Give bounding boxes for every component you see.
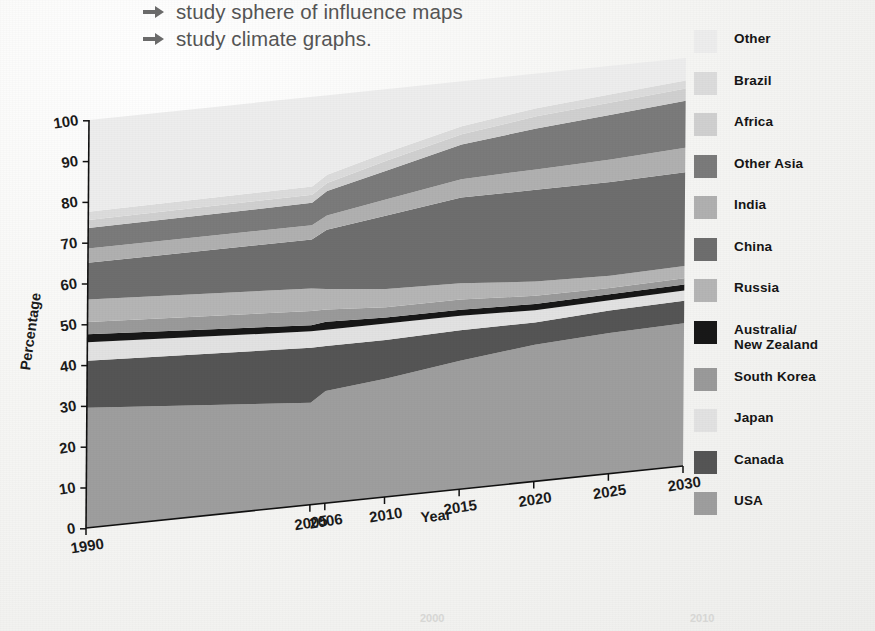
legend-label: Brazil [734,70,772,89]
legend-swatch [694,113,717,136]
legend-swatch [694,492,717,515]
x-tick-label: 1990 [69,535,105,557]
x-axis-title: Year [420,506,453,525]
legend-item: South Korea [694,366,872,408]
legend-item: Australia/ New Zealand [694,319,872,366]
scan-artifact: 2000 [420,612,444,624]
y-tick-label: 60 [59,274,78,293]
legend-item: Russia [694,277,872,319]
legend-swatch [694,72,717,95]
legend-label: Africa [734,111,773,130]
legend-label: USA [734,490,763,509]
y-tick-label: 50 [59,315,78,334]
y-tick-label: 80 [60,193,79,212]
legend-item: China [694,236,872,278]
legend-label: Other Asia [734,153,803,172]
legend-swatch [694,155,717,178]
legend-item: India [694,194,872,236]
y-tick-label: 40 [59,356,78,375]
y-axis-title: Percentage [17,292,44,372]
y-tick-label: 20 [58,438,77,457]
legend-label: Australia/ New Zealand [734,319,818,353]
legend-swatch [694,409,717,432]
legend-label: Canada [734,449,784,468]
legend-label: Russia [734,277,779,296]
legend-swatch [694,279,717,302]
x-tick-label: 2010 [368,504,404,526]
legend-swatch [694,368,717,391]
legend-item: Other Asia [694,153,872,195]
legend-label: China [734,236,772,255]
legend-label: Japan [734,407,774,426]
legend-item: Other [694,28,872,70]
legend-swatch [694,238,717,261]
x-tick-label: 2025 [592,480,628,502]
legend-swatch [694,451,717,474]
legend-item: Africa [694,111,872,153]
x-tick-label: 2006 [308,510,344,532]
chart-legend: OtherBrazilAfricaOther AsiaIndiaChinaRus… [694,28,872,532]
y-tick-label: 10 [58,478,77,497]
y-tick-label: 30 [58,397,77,416]
y-tick-label: 0 [66,519,77,537]
legend-label: Other [734,28,771,47]
legend-item: USA [694,490,872,532]
legend-label: India [734,194,766,213]
legend-item: Japan [694,407,872,449]
x-tick-label: 2020 [517,488,553,510]
legend-item: Brazil [694,70,872,112]
y-tick-label: 100 [52,111,79,132]
scan-artifact: 2010 [690,612,714,624]
y-tick-label: 70 [60,234,79,253]
legend-item: Canada [694,449,872,491]
legend-label: South Korea [734,366,816,385]
legend-swatch [694,196,717,219]
legend-swatch [694,321,717,344]
legend-swatch [694,30,717,53]
y-tick-label: 90 [60,152,79,171]
